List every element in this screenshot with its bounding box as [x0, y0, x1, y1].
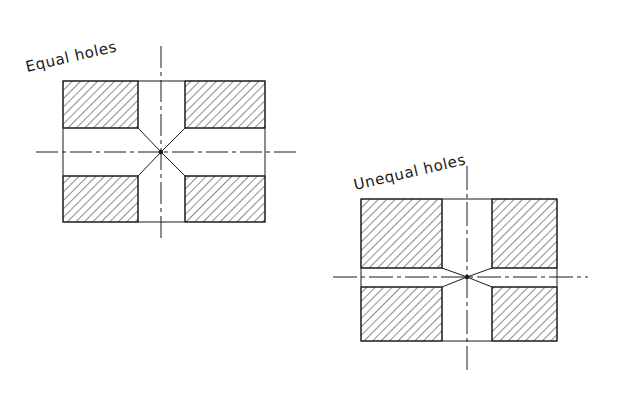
- hatched-block-top-left-equal: [63, 81, 138, 128]
- hatched-block-top-right-equal: [185, 81, 265, 128]
- hatched-block-top-left-unequal: [361, 199, 442, 268]
- hatched-block-bottom-left-equal: [63, 176, 138, 222]
- hatched-block-bottom-right-unequal: [492, 287, 557, 341]
- intersection-center-point-unequal: [465, 275, 469, 279]
- hatched-block-top-right-unequal: [492, 199, 557, 268]
- hatched-block-bottom-right-equal: [185, 176, 265, 222]
- hatched-block-bottom-left-unequal: [361, 287, 442, 341]
- intersection-center-point-equal: [159, 150, 163, 154]
- engineering-drawing-canvas: Equal holes Unequal holes: [0, 0, 631, 393]
